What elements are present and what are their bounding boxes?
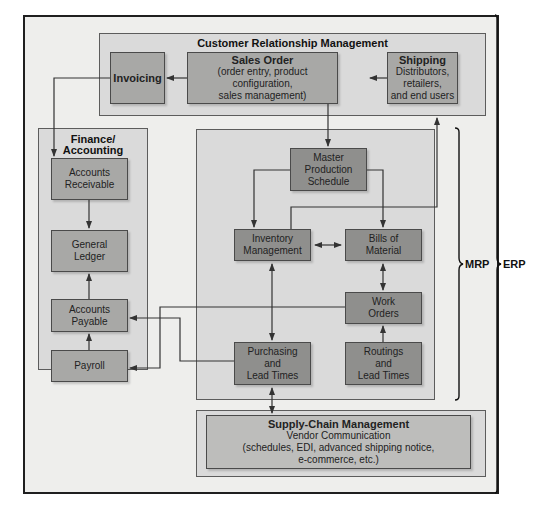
finance-title-line2: Accounting (38, 145, 148, 156)
inventory-line2: Management (243, 245, 301, 257)
accounts-payable-node[interactable]: Accounts Payable (51, 299, 128, 332)
supply-chain-node[interactable]: Supply-Chain Management Vendor Communica… (206, 415, 471, 469)
scm-title: Supply-Chain Management (268, 418, 409, 430)
bom-line2: Material (366, 245, 402, 257)
routings-line1: Routings (364, 346, 403, 358)
accounts-receivable-node[interactable]: Accounts Receivable (51, 158, 128, 200)
shipping-node[interactable]: Shipping Distributors, retailers, and en… (387, 52, 458, 104)
mps-line2: Production (305, 164, 353, 176)
shipping-line2: retailers, (403, 78, 441, 90)
work-orders-node[interactable]: Work Orders (345, 292, 422, 324)
purchasing-line1: Purchasing (247, 346, 297, 358)
sales-order-title: Sales Order (232, 54, 294, 66)
accounts-payable-line2: Payable (71, 316, 107, 328)
payroll-label: Payroll (74, 360, 105, 372)
crm-title: Customer Relationship Management (99, 37, 486, 49)
purchasing-line2: and (264, 358, 281, 370)
work-orders-line2: Orders (368, 308, 399, 320)
general-ledger-line1: General (72, 239, 108, 251)
mps-line1: Master (313, 152, 344, 164)
invoicing-node[interactable]: Invoicing (110, 52, 165, 104)
shipping-line3: and end users (391, 90, 454, 102)
shipping-line1: Distributors, (396, 66, 449, 78)
purchasing-line3: Lead Times (247, 370, 299, 382)
routings-line2: and (375, 358, 392, 370)
routings-node[interactable]: Routings and Lead Times (345, 342, 422, 385)
invoicing-label: Invoicing (113, 72, 161, 84)
bom-line1: Bills of (369, 233, 398, 245)
routings-line3: Lead Times (358, 370, 410, 382)
finance-title: Finance/ Accounting (38, 134, 148, 156)
mps-line3: Schedule (308, 176, 350, 188)
purchasing-node[interactable]: Purchasing and Lead Times (234, 342, 311, 385)
general-ledger-node[interactable]: General Ledger (51, 230, 128, 272)
erp-label: ERP (503, 258, 526, 270)
bills-of-material-node[interactable]: Bills of Material (345, 229, 422, 261)
accounts-payable-line1: Accounts (69, 304, 110, 316)
sales-order-node[interactable]: Sales Order (order entry, product config… (187, 52, 338, 104)
general-ledger-line2: Ledger (74, 251, 105, 263)
mrp-label: MRP (465, 258, 489, 270)
shipping-title: Shipping (399, 54, 446, 66)
inventory-line1: Inventory (252, 233, 293, 245)
sales-order-line1: (order entry, product configuration, (188, 66, 337, 90)
master-production-schedule-node[interactable]: Master Production Schedule (290, 148, 367, 191)
sales-order-line2: sales management) (219, 90, 307, 102)
scm-line1: Vendor Communication (287, 430, 391, 442)
payroll-node[interactable]: Payroll (51, 350, 128, 382)
inventory-management-node[interactable]: Inventory Management (234, 229, 311, 261)
accounts-receivable-line2: Receivable (65, 179, 114, 191)
work-orders-line1: Work (372, 296, 395, 308)
scm-line2: (schedules, EDI, advanced shipping notic… (243, 442, 435, 454)
accounts-receivable-line1: Accounts (69, 167, 110, 179)
scm-line3: e-commerce, etc.) (298, 454, 379, 466)
